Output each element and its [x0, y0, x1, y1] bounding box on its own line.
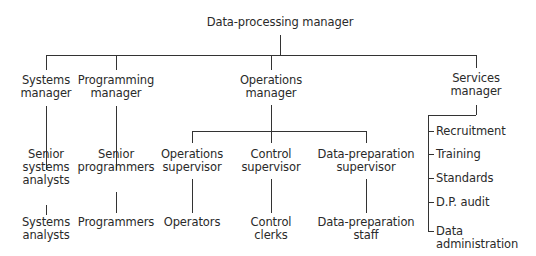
node-control-clerks: Control clerks — [251, 216, 292, 242]
node-programming-manager: Programming manager — [78, 74, 154, 100]
node-standards: Standards — [436, 172, 493, 185]
org-chart: Data-processing manager Systems manager … — [0, 0, 536, 256]
node-senior-programmers: Senior programmers — [78, 148, 155, 174]
node-data-preparation-supervisor: Data-preparation supervisor — [317, 148, 414, 174]
node-dp-audit: D.P. audit — [436, 196, 489, 209]
node-programmers: Programmers — [78, 216, 154, 229]
node-training: Training — [436, 148, 481, 161]
node-data-administration: Data administration — [436, 225, 518, 251]
node-services-manager: Services manager — [451, 72, 502, 98]
node-systems-analysts: Systems analysts — [22, 216, 70, 242]
node-systems-manager: Systems manager — [21, 74, 72, 100]
node-data-preparation-staff: Data-preparation staff — [317, 216, 414, 242]
node-recruitment: Recruitment — [436, 125, 506, 138]
node-operations-manager: Operations manager — [240, 74, 302, 100]
node-senior-systems-analysts: Senior systems analysts — [22, 148, 69, 187]
node-control-supervisor: Control supervisor — [241, 148, 300, 174]
node-data-processing-manager: Data-processing manager — [207, 16, 354, 29]
node-operations-supervisor: Operations supervisor — [161, 148, 223, 174]
node-operators: Operators — [164, 216, 221, 229]
